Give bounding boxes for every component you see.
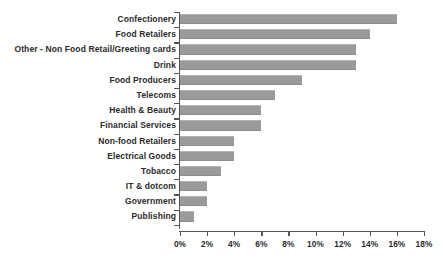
bar-category-label: Non-food Retailers xyxy=(98,134,176,149)
bar xyxy=(180,211,194,221)
x-axis-tick xyxy=(370,231,371,236)
bar-track xyxy=(180,14,397,24)
bar-track xyxy=(180,151,234,161)
bar xyxy=(180,60,356,70)
x-axis-tick-label: 14% xyxy=(361,239,378,249)
x-axis-tick-label: 2% xyxy=(201,239,213,249)
x-axis-tick xyxy=(316,231,317,236)
bar-track xyxy=(180,105,261,115)
y-axis-tick xyxy=(174,73,179,74)
y-axis-tick xyxy=(174,88,179,89)
bar-category-label: Health & Beauty xyxy=(109,103,176,118)
x-axis-tick xyxy=(180,231,181,236)
bar-category-label: Publishing xyxy=(132,209,176,224)
x-axis-tick-label: 6% xyxy=(255,239,267,249)
plot-area: ConfectioneryFood RetailersOther - Non F… xyxy=(0,0,443,263)
x-axis-tick-label: 0% xyxy=(174,239,186,249)
bar xyxy=(180,90,275,100)
y-axis-tick xyxy=(174,58,179,59)
bar-category-label: Government xyxy=(125,194,176,209)
x-axis-tick xyxy=(288,231,289,236)
x-axis-tick xyxy=(261,231,262,236)
bar-track xyxy=(180,60,356,70)
y-axis-tick xyxy=(174,42,179,43)
bar-row: Non-food Retailers xyxy=(0,134,443,149)
bar-row: Publishing xyxy=(0,209,443,224)
x-axis-tick xyxy=(234,231,235,236)
bar xyxy=(180,136,234,146)
bar xyxy=(180,196,207,206)
y-axis-tick xyxy=(174,27,179,28)
bar xyxy=(180,29,370,39)
bar-category-label: Financial Services xyxy=(100,118,176,133)
bar-row: Electrical Goods xyxy=(0,149,443,164)
bar-track xyxy=(180,211,194,221)
bar-row: Drink xyxy=(0,58,443,73)
bar-row: Government xyxy=(0,194,443,209)
bar-row: Telecoms xyxy=(0,88,443,103)
bar-row: Tobacco xyxy=(0,164,443,179)
bar-category-label: Drink xyxy=(154,58,176,73)
x-axis-tick-label: 12% xyxy=(334,239,351,249)
x-axis-tick xyxy=(343,231,344,236)
bar-category-label: Confectionery xyxy=(118,12,176,27)
y-axis-tick xyxy=(174,12,179,13)
bar-category-label: Electrical Goods xyxy=(107,149,176,164)
bar-row: IT & dotcom xyxy=(0,179,443,194)
bar xyxy=(180,181,207,191)
y-axis-tick xyxy=(174,103,179,104)
x-axis-line xyxy=(179,231,425,232)
bar-category-label: Food Producers xyxy=(109,73,176,88)
x-axis-tick xyxy=(397,231,398,236)
y-axis-tick xyxy=(174,149,179,150)
bar-track xyxy=(180,120,261,130)
x-axis-tick-label: 4% xyxy=(228,239,240,249)
x-axis-tick-label: 16% xyxy=(388,239,405,249)
bar-category-label: Food Retailers xyxy=(116,27,176,42)
bar-row: Financial Services xyxy=(0,118,443,133)
bar-track xyxy=(180,29,370,39)
bar-track xyxy=(180,166,221,176)
y-axis-tick xyxy=(174,134,179,135)
y-axis-tick xyxy=(174,210,179,211)
bar xyxy=(180,75,302,85)
x-axis-tick-label: 10% xyxy=(307,239,324,249)
bar-row: Food Producers xyxy=(0,73,443,88)
bar-category-label: Other - Non Food Retail/Greeting cards xyxy=(14,42,176,57)
y-axis-tick xyxy=(174,179,179,180)
y-axis-tick xyxy=(174,194,179,195)
bar-category-label: Telecoms xyxy=(137,88,176,103)
y-axis-tick xyxy=(174,164,179,165)
bar-track xyxy=(180,196,207,206)
bar-row: Other - Non Food Retail/Greeting cards xyxy=(0,42,443,57)
x-axis-tick-label: 18% xyxy=(416,239,433,249)
bar-row: Confectionery xyxy=(0,12,443,27)
bar-track xyxy=(180,181,207,191)
bar-category-label: Tobacco xyxy=(141,164,176,179)
bar xyxy=(180,151,234,161)
bar-chart: ConfectioneryFood RetailersOther - Non F… xyxy=(0,0,443,263)
y-axis-line xyxy=(179,12,180,229)
bar xyxy=(180,120,261,130)
x-axis-tick-label: 8% xyxy=(282,239,294,249)
x-axis-tick xyxy=(424,231,425,236)
bar xyxy=(180,14,397,24)
y-axis-tick xyxy=(174,118,179,119)
bar-track xyxy=(180,75,302,85)
bar-track xyxy=(180,136,234,146)
y-axis-tick xyxy=(174,225,179,226)
bar xyxy=(180,166,221,176)
bar-row: Food Retailers xyxy=(0,27,443,42)
bar-track xyxy=(180,44,356,54)
bar-category-label: IT & dotcom xyxy=(126,179,176,194)
bar xyxy=(180,105,261,115)
x-axis-tick xyxy=(207,231,208,236)
bar-rows: ConfectioneryFood RetailersOther - Non F… xyxy=(0,12,443,225)
bar-track xyxy=(180,90,275,100)
bar xyxy=(180,44,356,54)
bar-row: Health & Beauty xyxy=(0,103,443,118)
